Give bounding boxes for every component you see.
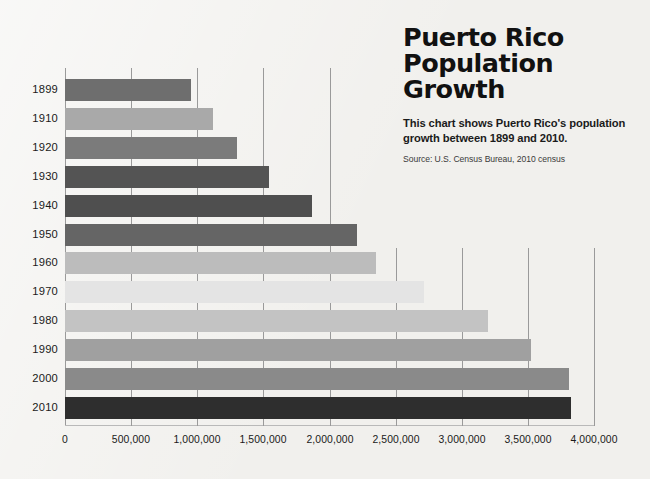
x-axis-label-3000000: 3,000,000 [438, 434, 485, 445]
x-axis-label-1000000: 1,000,000 [173, 434, 220, 445]
bar-1950 [65, 224, 357, 246]
x-axis-label-2500000: 2,500,000 [372, 434, 419, 445]
bar-1960 [65, 252, 376, 274]
y-axis-label-1950: 1950 [6, 228, 58, 240]
chart-page: 1899191019201930194019501960197019801990… [0, 0, 650, 479]
page-title: Puerto Rico Population Growth [403, 24, 641, 102]
x-axis-label-3500000: 3,500,000 [504, 434, 551, 445]
chart-subtitle: This chart shows Puerto Rico's populatio… [403, 116, 641, 145]
x-axis-label-0: 0 [62, 434, 68, 445]
y-axis-label-1960: 1960 [6, 256, 58, 268]
bar-1940 [65, 195, 312, 217]
bar-1910 [65, 108, 213, 130]
x-axis-label-4000000: 4,000,000 [570, 434, 617, 445]
gridline [594, 248, 595, 426]
y-axis-label-1970: 1970 [6, 285, 58, 297]
y-axis-label-1980: 1980 [6, 314, 58, 326]
y-axis-label-1899: 1899 [6, 83, 58, 95]
y-axis-label-1910: 1910 [6, 112, 58, 124]
chart-source: Source: U.S. Census Bureau, 2010 census [403, 154, 641, 165]
bar-1930 [65, 166, 269, 188]
y-axis-label-1940: 1940 [6, 199, 58, 211]
bar-1899 [65, 79, 191, 101]
bar-1970 [65, 281, 424, 303]
y-axis-label-1920: 1920 [6, 141, 58, 153]
y-axis-label-2000: 2000 [6, 372, 58, 384]
y-axis-label-1930: 1930 [6, 170, 58, 182]
y-axis-label-2010: 2010 [6, 401, 58, 413]
x-axis-label-1500000: 1,500,000 [239, 434, 286, 445]
bar-1990 [65, 339, 531, 361]
bar-1980 [65, 310, 488, 332]
bar-2000 [65, 368, 569, 390]
y-axis-label-1990: 1990 [6, 343, 58, 355]
bar-2010 [65, 397, 571, 419]
x-axis-label-500000: 500,000 [112, 434, 150, 445]
x-axis-label-2000000: 2,000,000 [306, 434, 353, 445]
bar-1920 [65, 137, 237, 159]
title-block: Puerto Rico Population Growth This chart… [403, 24, 641, 165]
